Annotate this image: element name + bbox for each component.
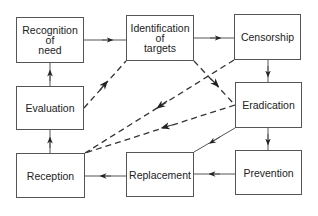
node-label: Reception <box>27 171 74 181</box>
dashed-arrow-evaluation-to-identification <box>84 61 126 108</box>
node-censorship: Censorship <box>234 14 301 60</box>
node-recognition-of-need: Recognition of need <box>16 17 84 63</box>
node-prevention: Prevention <box>235 150 302 195</box>
node-identification-of-targets: Identification of targets <box>126 15 194 61</box>
node-label: Identification of targets <box>131 23 190 53</box>
dashed-arrow-eradication-to-reception <box>85 105 235 153</box>
node-eradication: Eradication <box>235 82 302 128</box>
node-label: Prevention <box>243 168 293 178</box>
node-label: Evaluation <box>25 103 74 113</box>
node-label: Recognition of need <box>22 25 77 55</box>
node-evaluation: Evaluation <box>16 86 84 130</box>
node-reception: Reception <box>16 153 85 198</box>
arrow-eradication-to-replacement <box>194 128 235 152</box>
node-replacement: Replacement <box>126 152 194 197</box>
dashed-arrow-censorship-to-reception <box>85 60 234 153</box>
node-label: Replacement <box>129 170 191 180</box>
node-label: Eradication <box>242 100 295 110</box>
dashed-arrow-identification-to-eradication <box>194 61 235 105</box>
node-label: Censorship <box>241 32 294 42</box>
